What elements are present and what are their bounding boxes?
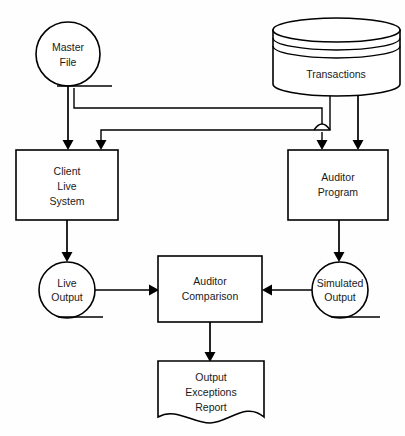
node-auditor-program[interactable]: Auditor Program [288,150,388,220]
connector-master-file-to-auditor-program [74,88,328,150]
connector-auditor-program-to-simulated-output [334,220,345,262]
client-live-system-label-line1: Client [54,165,81,177]
client-live-system-label-line3: System [49,195,84,207]
auditor-comparison-label-line1: Auditor [193,275,227,287]
node-output-exceptions-report[interactable]: Output Exceptions Report [158,361,264,423]
node-master-file[interactable]: Master File [36,22,112,86]
connector-auditor-comparison-to-output-exceptions-report [205,322,216,362]
master-file-label-line2: File [60,56,77,68]
node-transactions[interactable]: Transactions [273,18,400,96]
node-simulated-output[interactable]: Simulated Output [312,262,380,318]
transactions-label: Transactions [306,68,366,80]
auditor-program-label-line1: Auditor [321,171,355,183]
client-live-system-label-line2: Live [57,180,76,192]
connector-live-output-to-auditor-comparison [95,285,159,296]
auditor-comparison-label-line2: Comparison [182,290,239,302]
master-file-label-line1: Master [52,41,85,53]
auditor-program-label-line2: Program [318,186,359,198]
connector-simulated-output-to-auditor-comparison [262,285,312,296]
live-output-label-line1: Live [57,277,76,289]
live-output-label-line2: Output [51,291,83,303]
flowchart-canvas: Master File Transactions Client Live Sys… [0,0,405,436]
node-client-live-system[interactable]: Client Live System [16,150,118,220]
connector-client-live-system-to-live-output [62,220,73,262]
simulated-output-label-line2: Output [324,291,356,303]
connector-transactions-to-client-live-system [96,96,331,150]
output-exceptions-report-label-line2: Exceptions [185,386,236,398]
line-hop-bridge-icon [314,124,330,130]
output-exceptions-report-label-line1: Output [195,371,227,383]
flowchart-svg: Master File Transactions Client Live Sys… [0,0,405,436]
node-live-output[interactable]: Live Output [39,262,103,318]
node-auditor-comparison[interactable]: Auditor Comparison [158,256,262,322]
output-exceptions-report-label-line3: Report [195,401,227,413]
connector-master-file-to-client-live-system [63,86,74,150]
connector-transactions-to-auditor-program [353,96,364,150]
simulated-output-label-line1: Simulated [317,277,364,289]
